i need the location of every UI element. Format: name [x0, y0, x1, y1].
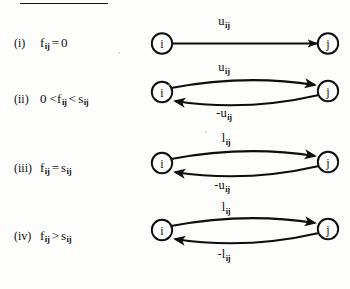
node-j-label-1: j	[325, 37, 329, 51]
scan-speck	[205, 131, 207, 133]
edge-backward-2	[175, 95, 319, 105]
edge-label-top-1: uij	[196, 14, 252, 30]
node-j-label-2: j	[325, 85, 329, 99]
expr-sub-1: ij	[44, 41, 49, 51]
diagram-row-2: uij -uij i j	[140, 62, 350, 132]
node-j-label-4: j	[325, 223, 329, 237]
diagram-row-3: lij -uij i j	[140, 132, 350, 202]
expr-op-3: =	[50, 160, 61, 175]
edge-label-top-sub-3: ij	[225, 138, 230, 147]
expr-op-4: >	[50, 228, 61, 243]
expr-prefix-2: 0 <	[40, 91, 57, 106]
figure-canvas: DEFINITIONS (i) fij=0 uij i j	[0, 0, 350, 289]
edge-label-bottom-text-2: -u	[216, 106, 226, 120]
expr-sub-2: ij	[61, 97, 66, 107]
edge-forward-3	[171, 151, 315, 159]
edge-forward-4	[171, 218, 315, 226]
expr-rhs-sub-3: ij	[66, 166, 71, 176]
edge-label-top-4: lij	[198, 200, 254, 216]
edge-label-top-2: uij	[196, 60, 252, 76]
expr-rhs-1: 0	[61, 35, 68, 50]
edge-label-bottom-3: -uij	[190, 178, 254, 194]
scan-speck	[118, 52, 120, 54]
condition-expression-3: fij=sij	[34, 160, 71, 177]
condition-numeral-1: (i)	[0, 36, 34, 51]
diagram-row-4: lij -lij i j	[140, 200, 350, 270]
edge-label-bottom-sub-3: ij	[225, 185, 230, 194]
heading-fragment: DEFINITIONS	[20, 0, 108, 5]
condition-row-3: (iii) fij=sij	[0, 157, 140, 179]
edge-label-top-sub-1: ij	[225, 21, 230, 30]
edge-label-bottom-2: -uij	[192, 106, 256, 122]
edge-label-bottom-4: -lij	[192, 247, 256, 263]
condition-row-2: (ii) 0 <fij<sij	[0, 88, 140, 110]
expr-op-2: <	[67, 91, 78, 106]
edge-forward-2	[171, 80, 315, 88]
edge-label-bottom-sub-2: ij	[227, 113, 232, 122]
edge-label-top-text-2: u	[218, 60, 224, 74]
expr-sub-4: ij	[44, 234, 49, 244]
edge-label-top-sub-2: ij	[225, 67, 230, 76]
scan-speck	[168, 84, 170, 86]
condition-expression-2: 0 <fij<sij	[34, 91, 89, 108]
edge-label-top-text-1: u	[218, 14, 224, 28]
condition-numeral-2: (ii)	[0, 92, 34, 107]
edge-backward-4	[175, 233, 319, 243]
node-j-label-3: j	[325, 156, 329, 170]
expr-op-1: =	[50, 35, 61, 50]
condition-expression-1: fij=0	[34, 35, 68, 52]
condition-numeral-4: (iv)	[0, 229, 34, 244]
edge-label-bottom-sub-4: ij	[225, 254, 230, 263]
edge-backward-3	[175, 166, 319, 176]
heading-fragment-text: DEFINITIONS	[20, 0, 108, 4]
expr-sub-3: ij	[44, 166, 49, 176]
expr-rhs-sub-4: ij	[66, 234, 71, 244]
condition-numeral-3: (iii)	[0, 161, 34, 176]
edge-label-top-3: lij	[198, 131, 254, 147]
edge-label-top-sub-4: ij	[225, 207, 230, 216]
condition-row-1: (i) fij=0	[0, 32, 140, 54]
condition-row-4: (iv) fij>sij	[0, 225, 140, 247]
expr-rhs-sub-2: ij	[83, 97, 88, 107]
edge-label-bottom-text-3: -u	[214, 178, 224, 192]
condition-expression-4: fij>sij	[34, 228, 71, 245]
